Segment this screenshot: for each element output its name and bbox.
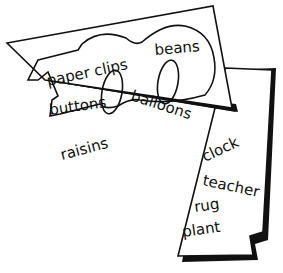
word-raisins: raisins (58, 134, 110, 164)
word-rug: rug (193, 195, 220, 216)
illustration: paper clips beans buttons balloons raisi… (0, 0, 283, 273)
